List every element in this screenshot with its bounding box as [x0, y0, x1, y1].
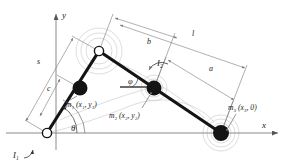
- joint-crank-tip-pivot: [94, 46, 103, 55]
- dimension-a-line: [168, 60, 234, 100]
- dimension-label-l: l: [192, 29, 195, 38]
- dimension-labels: b l a s c: [37, 29, 213, 93]
- mass-label-m2: m₂ (x₂, y₂): [109, 111, 140, 120]
- mechanism-diagram: y x b l a s c φ: [0, 0, 288, 168]
- x-axis-label: x: [261, 120, 266, 130]
- inertia-label-I1: I₁: [12, 150, 19, 160]
- mass-label-m1: m₁ (x₁, y₁): [66, 100, 97, 109]
- inertia-markers: I₁ I₂: [12, 58, 168, 160]
- joint-ground-pivot: [42, 128, 51, 137]
- dimension-label-b: b: [147, 37, 151, 46]
- angle-label-theta: θ: [71, 123, 76, 133]
- mass-m2-marker: [147, 81, 162, 96]
- mass-m2-leader: [142, 95, 150, 108]
- dimension-l-line: [120, 25, 245, 68]
- mass-m1-marker: [73, 81, 88, 96]
- angle-label-phi: φ: [128, 76, 133, 86]
- dimension-label-s: s: [37, 57, 40, 66]
- dimension-label-c: c: [47, 84, 51, 93]
- mass-m3-marker: [213, 125, 229, 141]
- dimension-label-a: a: [209, 64, 213, 73]
- linkage-bars: [47, 51, 221, 133]
- dimension-b-line: [115, 18, 177, 38]
- mass-label-m3: m₃ (x₃, 0): [228, 103, 257, 112]
- y-axis-label: y: [61, 10, 66, 20]
- inertia-label-I2: I₂: [156, 58, 163, 68]
- mass-markers: [73, 81, 230, 142]
- inertia-I1-arrow: [24, 150, 33, 158]
